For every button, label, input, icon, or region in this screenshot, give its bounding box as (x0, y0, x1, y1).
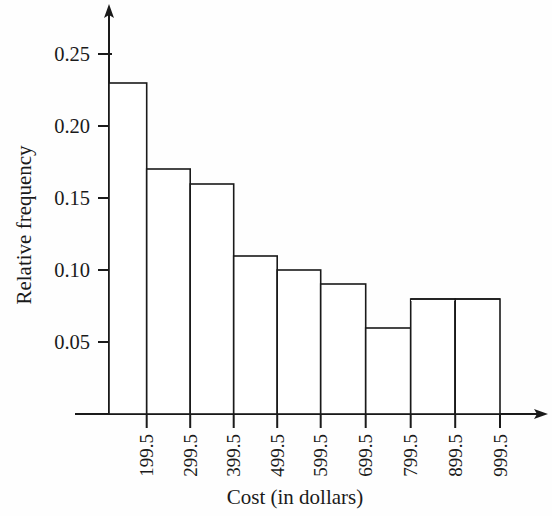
x-tick-label-699.5: 699.5 (355, 434, 376, 477)
bar-6 (366, 328, 411, 414)
x-tick-labels: 199.5 299.5 399.5 499.5 599.5 699.5 799.… (136, 434, 511, 477)
bar-8 (455, 299, 500, 414)
bar-7 (411, 299, 456, 414)
bar-2 (190, 184, 234, 414)
y-tick-label-0.20: 0.20 (54, 115, 90, 137)
bar-4 (277, 270, 321, 414)
x-axis-title: Cost (in dollars) (227, 485, 364, 509)
bar-3 (234, 256, 278, 414)
bar-5 (321, 284, 366, 414)
x-tick-label-599.5: 599.5 (310, 434, 331, 477)
x-tick-label-499.5: 499.5 (267, 434, 288, 477)
y-tick-label-0.15: 0.15 (54, 187, 90, 209)
x-tick-label-199.5: 199.5 (136, 434, 157, 477)
x-tick-marks (147, 414, 500, 428)
x-tick-label-999.5: 999.5 (490, 434, 511, 477)
x-tick-label-799.5: 799.5 (400, 434, 421, 477)
bar-0 (109, 83, 147, 414)
x-tick-label-399.5: 399.5 (223, 434, 244, 477)
histogram-svg: 0.05 0.10 0.15 0.20 0.25 (0, 0, 552, 516)
x-tick-label-899.5: 899.5 (445, 434, 466, 477)
y-axis-title: Relative frequency (12, 145, 36, 305)
x-tick-label-299.5: 299.5 (180, 434, 201, 477)
y-tick-label-0.05: 0.05 (54, 331, 90, 353)
y-tick-labels: 0.05 0.10 0.15 0.20 0.25 (54, 43, 90, 353)
y-tick-label-0.25: 0.25 (54, 43, 90, 65)
bars-group (109, 83, 500, 414)
y-tick-label-0.10: 0.10 (54, 259, 90, 281)
bar-1 (147, 169, 191, 414)
histogram-figure: 0.05 0.10 0.15 0.20 0.25 (0, 0, 552, 516)
